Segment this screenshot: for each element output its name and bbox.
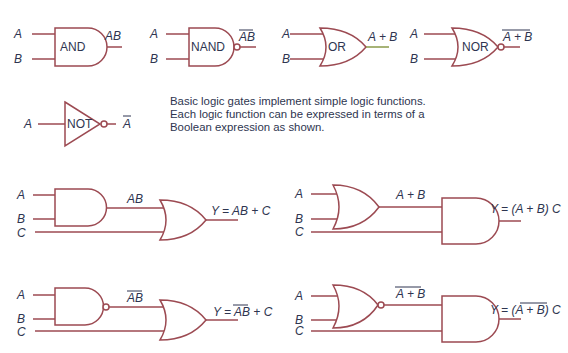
input-label-c: C bbox=[17, 226, 26, 240]
output-expression: Y = (A + B) C bbox=[490, 202, 561, 216]
output-expression: Y = AB + C bbox=[213, 305, 273, 319]
input-label-a: A bbox=[16, 288, 25, 302]
output-label-nand: AB bbox=[238, 30, 255, 44]
nor-gate: A B NOR A + B bbox=[409, 27, 532, 66]
output-label-nor: A + B bbox=[502, 30, 532, 44]
output-label-or: A + B bbox=[367, 30, 397, 44]
and-gate: A B AND AB bbox=[13, 27, 122, 66]
input-label-a: A bbox=[149, 27, 158, 41]
intermediate-label: A + B bbox=[395, 188, 425, 202]
input-label-c: C bbox=[295, 225, 304, 239]
description-line: Each logic function can be expressed in … bbox=[170, 108, 490, 121]
gate-name-not: NOT bbox=[67, 117, 93, 131]
nand-gate: A B NAND AB bbox=[149, 27, 256, 66]
circuit-nand-or: A B C AB Y = AB + C bbox=[16, 288, 273, 340]
input-label-a: A bbox=[23, 117, 32, 131]
circuit-and-or: A B C AB Y = AB + C bbox=[16, 188, 271, 240]
input-label-b: B bbox=[150, 52, 158, 66]
input-label-a: A bbox=[409, 27, 418, 41]
gate-name-and: AND bbox=[60, 40, 86, 54]
gate-name-nor: NOR bbox=[462, 40, 489, 54]
description-text: Basic logic gates implement simple logic… bbox=[170, 95, 490, 133]
description-line: Basic logic gates implement simple logic… bbox=[170, 95, 490, 108]
input-label-b: B bbox=[410, 52, 418, 66]
circuit-or-and: A B C A + B Y = (A + B) C bbox=[294, 185, 561, 244]
input-label-b: B bbox=[14, 52, 22, 66]
input-label-a: A bbox=[294, 187, 303, 201]
not-gate: A NOT A bbox=[23, 102, 131, 146]
intermediate-label: AB bbox=[126, 192, 143, 206]
output-expression: Y = AB + C bbox=[211, 204, 271, 218]
input-label-b: B bbox=[17, 212, 25, 226]
input-label-a: A bbox=[16, 188, 25, 202]
gate-name-or: OR bbox=[328, 40, 346, 54]
description-line: Boolean expression as shown. bbox=[170, 121, 490, 134]
input-label-a: A bbox=[281, 27, 290, 41]
input-label-a: A bbox=[13, 27, 22, 41]
output-expression: Y = (A + B) C bbox=[490, 303, 561, 317]
input-label-b: B bbox=[282, 52, 290, 66]
input-label-b: B bbox=[295, 212, 303, 226]
gate-name-nand: NAND bbox=[191, 40, 225, 54]
output-label-not: A bbox=[122, 117, 131, 131]
or-gate: A B OR A + B bbox=[281, 27, 397, 66]
intermediate-label: AB bbox=[126, 291, 143, 305]
input-label-a: A bbox=[294, 289, 303, 303]
input-label-c: C bbox=[17, 325, 26, 339]
input-label-b: B bbox=[17, 312, 25, 326]
input-label-c: C bbox=[295, 324, 304, 338]
circuit-nor-and: A B C A + B Y = (A + B) C bbox=[294, 285, 561, 342]
intermediate-label: A + B bbox=[395, 287, 425, 301]
output-label-and: AB bbox=[104, 29, 121, 43]
